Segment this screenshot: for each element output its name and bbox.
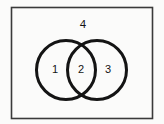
- region-label-intersection: 2: [78, 64, 84, 75]
- region-label-universe: 4: [80, 19, 86, 30]
- venn-diagram-figure: 4 1 2 3: [0, 0, 164, 124]
- region-label-left: 1: [52, 64, 58, 75]
- region-label-right: 3: [105, 64, 111, 75]
